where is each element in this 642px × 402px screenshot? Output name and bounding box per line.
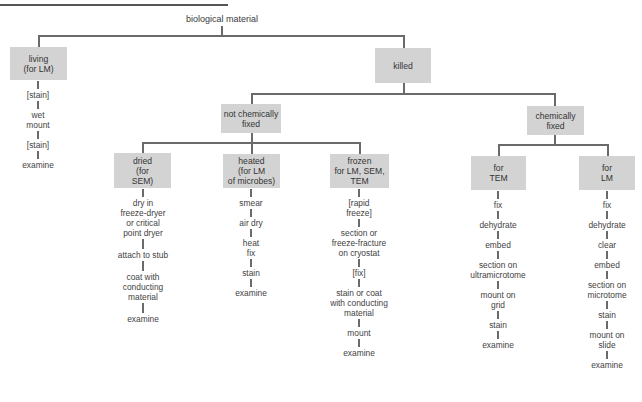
connector [358, 339, 360, 347]
step: air dry [239, 218, 262, 228]
step: [rapid freeze] [346, 198, 372, 218]
connector [38, 35, 405, 37]
connector [607, 144, 609, 156]
step: section on ultramicrotome [470, 260, 525, 280]
connector [498, 144, 500, 156]
step: stain or coat with conducting material [330, 288, 388, 318]
connector [251, 93, 253, 104]
connector [250, 209, 252, 217]
node-for-lm: for LM [579, 156, 635, 190]
connector [497, 311, 499, 319]
connector [606, 191, 608, 199]
connector [554, 93, 556, 106]
step: smear [239, 198, 262, 208]
root-node-biological-material: biological material [172, 14, 272, 25]
connector [606, 321, 608, 329]
step: attach to stub [118, 250, 168, 260]
step: examine [127, 314, 159, 324]
connector [251, 133, 253, 142]
connector [251, 142, 253, 154]
step: mount [347, 328, 370, 338]
connector [358, 219, 360, 227]
node-heated: heated (for LM of microbes) [223, 154, 280, 188]
connector [497, 281, 499, 289]
connector [606, 271, 608, 279]
step: examine [482, 340, 514, 350]
connector [606, 251, 608, 259]
connector [37, 101, 39, 109]
step: dehydrate [588, 220, 625, 230]
step: wet mount [26, 110, 49, 130]
connector [251, 93, 555, 95]
connector [497, 231, 499, 239]
node-frozen: frozen for LM, SEM, TEM [330, 154, 389, 188]
step: coat with conducting material [123, 272, 164, 302]
steps-frozen: [rapid freeze] section or freeze-fractur… [304, 188, 414, 358]
connector [38, 35, 40, 47]
connector [359, 142, 361, 154]
connector [142, 239, 144, 249]
step: stain [242, 268, 260, 278]
node-not-chemically-fixed: not chemically fixed [221, 104, 281, 133]
node-for-tem: for TEM [471, 156, 526, 190]
node-dried: dried (for SEM) [114, 153, 171, 188]
connector [250, 259, 252, 267]
connector [142, 142, 144, 153]
steps-for-tem: fix dehydrate embed section on ultramicr… [443, 190, 553, 350]
connector [554, 135, 556, 144]
steps-dried: dry in freeze-dryer or critical point dr… [88, 188, 198, 324]
node-chemically-fixed: chemically fixed [527, 106, 584, 135]
step: dehydrate [479, 220, 516, 230]
connector [142, 189, 144, 197]
connector [250, 189, 252, 197]
step: heat fix [243, 238, 259, 258]
connector [37, 151, 39, 159]
node-killed: killed [375, 48, 431, 83]
connector [497, 331, 499, 339]
connector [403, 35, 405, 48]
step: section on microtome [587, 280, 626, 300]
connector [497, 251, 499, 259]
connector [37, 81, 39, 89]
step: [stain] [27, 140, 49, 150]
connector [37, 131, 39, 139]
connector [606, 211, 608, 219]
step: examine [343, 348, 375, 358]
step: examine [591, 360, 623, 370]
connector [142, 261, 144, 271]
connector [498, 144, 608, 146]
connector [606, 351, 608, 359]
step: fix [494, 200, 502, 210]
connector [358, 259, 360, 267]
step: examine [22, 160, 54, 170]
step: embed [485, 240, 511, 250]
step: dry in freeze-dryer or critical point dr… [120, 198, 165, 238]
node-living: living (for LM) [10, 47, 67, 80]
top-rule [0, 4, 228, 6]
connector [358, 279, 360, 287]
steps-for-lm: fix dehydrate clear embed section on mic… [552, 190, 642, 370]
connector [142, 303, 144, 313]
connector [606, 301, 608, 309]
step: examine [235, 288, 267, 298]
connector [497, 191, 499, 199]
step: stain [489, 320, 507, 330]
steps-heated: smear air dry heat fix stain examine [196, 188, 306, 298]
connector [250, 229, 252, 237]
step: mount on grid [481, 290, 516, 310]
step: [stain] [27, 90, 49, 100]
connector [358, 189, 360, 197]
step: embed [594, 260, 620, 270]
step: mount on slide [590, 330, 625, 350]
step: [fix] [352, 268, 365, 278]
connector [358, 319, 360, 327]
steps-living: [stain] wet mount [stain] examine [0, 80, 93, 170]
connector [497, 211, 499, 219]
step: stain [598, 310, 616, 320]
step: clear [598, 240, 616, 250]
step: fix [603, 200, 611, 210]
step: section or freeze-fracture on cryostat [332, 228, 386, 258]
connector [250, 279, 252, 287]
connector [606, 231, 608, 239]
